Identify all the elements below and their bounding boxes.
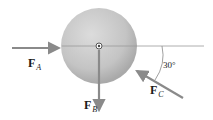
angle-label: 30° <box>163 60 176 70</box>
force-a-label: FA <box>28 56 40 71</box>
angle-arc <box>155 46 163 80</box>
force-b-label: FB <box>84 98 96 113</box>
force-c-label: FC <box>150 83 163 98</box>
